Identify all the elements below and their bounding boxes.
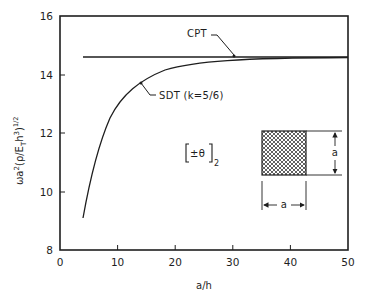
x-tick-10: 10 [111,256,124,268]
y-tick-14: 14 [40,69,54,81]
laminate-label: ±θ 2 [186,144,219,168]
y-tick-12: 12 [40,127,53,139]
svg-text:2: 2 [214,159,219,168]
cpt-leader-dot [233,55,236,58]
plate-inset-diagram: a a [262,131,342,210]
svg-text:±θ: ±θ [190,148,205,159]
cpt-label: CPT [187,28,208,39]
x-tick-0: 0 [57,256,64,268]
y-tick-labels: 8 10 12 14 16 [40,10,54,256]
y-tick-8: 8 [46,244,53,256]
x-tick-labels: 0 10 20 30 40 50 [57,256,355,268]
x-tick-20: 20 [169,256,182,268]
y-tick-10: 10 [40,186,53,198]
sdt-curve [83,58,348,219]
hatched-plate [262,131,306,175]
sdt-leader-dot [140,82,143,85]
y-axis-title: ωa2(ρ/ETh3)1/2 [12,117,28,185]
sdt-label: SDT (k=5/6) [159,90,224,101]
dim-a-horizontal: a [281,199,287,210]
frequency-vs-aspect-chart: 8 10 12 14 16 0 10 20 30 40 50 a/h ωa2(ρ… [0,0,367,297]
cpt-leader [211,35,234,55]
x-axis-title: a/h [196,280,212,291]
sdt-leader [141,83,156,95]
x-tick-40: 40 [284,256,297,268]
y-tick-16: 16 [40,10,54,22]
x-tick-50: 50 [341,256,354,268]
x-tick-30: 30 [226,256,239,268]
dim-a-vertical: a [332,147,338,158]
svg-text:ωa2(ρ/ETh3)1/2: ωa2(ρ/ETh3)1/2 [12,117,28,185]
